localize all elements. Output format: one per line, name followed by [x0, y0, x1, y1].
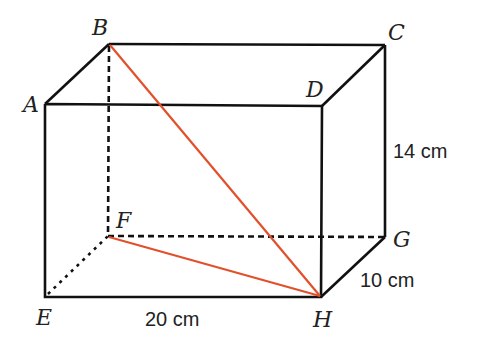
vertex-label-F: F: [115, 208, 132, 233]
hidden-edge-EF: [48, 236, 108, 294]
edge-AB: [45, 44, 109, 104]
diagonal-BH: [110, 45, 320, 296]
dimension-length-label: 20 cm: [145, 308, 199, 330]
vertex-label-D: D: [305, 77, 324, 102]
dimension-width-label: 10 cm: [360, 269, 414, 291]
diagonal-FH: [109, 237, 320, 296]
dimension-height-label: 14 cm: [393, 140, 447, 162]
hidden-edge-BF: [108, 46, 109, 236]
vertex-label-E: E: [35, 305, 52, 330]
vertex-label-B: B: [91, 15, 108, 40]
edge-CD: [322, 45, 385, 106]
hidden-edge-FG: [108, 236, 385, 237]
cuboid-diagram: A B C D E F G H 14 cm 10 cm 20 cm: [0, 0, 487, 348]
vertex-label-C: C: [388, 20, 405, 45]
vertex-label-H: H: [312, 307, 333, 332]
vertex-label-G: G: [393, 227, 411, 252]
vertex-label-A: A: [21, 92, 39, 117]
edge-BC: [109, 44, 385, 45]
